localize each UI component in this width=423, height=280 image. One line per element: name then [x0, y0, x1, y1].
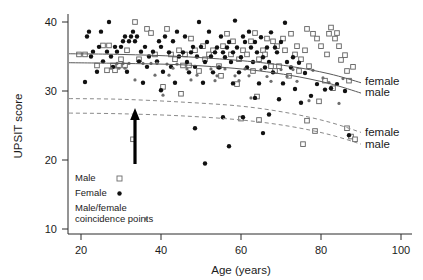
- data-point-coincidence: [279, 68, 282, 71]
- data-point-male: [345, 69, 350, 74]
- data-point-female: [85, 34, 89, 38]
- data-point-female: [131, 29, 135, 33]
- data-point-coincidence: [209, 67, 212, 70]
- data-point-coincidence: [265, 75, 268, 78]
- legend-label-female: Female: [75, 187, 107, 198]
- data-point-coincidence: [171, 67, 174, 70]
- data-point-female: [211, 70, 215, 74]
- data-point-coincidence: [195, 74, 198, 77]
- data-point-female: [275, 50, 279, 54]
- data-point-female: [141, 81, 145, 85]
- data-point-coincidence: [233, 74, 236, 77]
- data-point-male: [327, 31, 332, 36]
- data-point-female: [297, 61, 301, 65]
- data-point-male: [101, 43, 106, 48]
- data-point-female: [197, 20, 201, 24]
- data-point-male: [305, 118, 310, 123]
- data-point-female: [151, 49, 155, 53]
- x-tick-label-60: 60: [235, 244, 247, 256]
- legend-label-coincidence-line1: Male/female: [75, 202, 127, 213]
- data-point-female: [241, 115, 245, 119]
- y-tick-label-20: 20: [45, 154, 57, 166]
- data-point-male: [177, 48, 182, 53]
- data-point-female: [163, 34, 167, 38]
- data-point-coincidence: [237, 79, 240, 82]
- data-point-female: [193, 126, 197, 130]
- data-point-male: [353, 137, 358, 142]
- data-point-female: [161, 69, 165, 73]
- data-point-female: [187, 70, 191, 74]
- data-point-female: [107, 20, 111, 24]
- data-point-female: [207, 29, 211, 33]
- data-point-male: [221, 44, 226, 49]
- data-point-female: [109, 54, 113, 58]
- data-point-coincidence: [189, 78, 192, 81]
- data-point-coincidence: [249, 96, 252, 99]
- y-tick-label-30: 30: [45, 85, 57, 97]
- x-tick-label-20: 20: [75, 244, 87, 256]
- data-point-female: [231, 81, 235, 85]
- data-point-female: [277, 97, 281, 101]
- fit-curve-label-male-upper: male: [365, 86, 390, 98]
- data-point-female: [281, 81, 285, 85]
- data-point-male: [317, 99, 322, 104]
- data-point-female: [167, 50, 171, 54]
- data-points-layer: [77, 18, 358, 165]
- x-tick-label-80: 80: [315, 244, 327, 256]
- data-point-female: [203, 60, 207, 64]
- data-point-male: [333, 36, 338, 41]
- data-point-female: [95, 69, 99, 73]
- data-point-female: [123, 34, 127, 38]
- chart-figure: 40 30 20 10 20 40 60 80 100 Age (years) …: [0, 0, 423, 280]
- data-point-coincidence: [167, 74, 170, 77]
- data-point-female: [309, 94, 313, 98]
- data-point-female: [227, 40, 231, 44]
- data-point-female: [249, 45, 253, 49]
- data-point-male: [283, 48, 288, 53]
- data-point-male: [107, 43, 112, 48]
- data-point-female: [237, 70, 241, 74]
- x-tick-label-40: 40: [155, 244, 167, 256]
- data-point-male: [339, 58, 344, 63]
- data-point-male: [307, 64, 312, 69]
- data-point-female: [99, 29, 103, 33]
- series-female: [83, 18, 351, 165]
- data-point-male: [249, 39, 254, 44]
- data-point-female: [97, 45, 101, 49]
- data-point-female: [159, 88, 163, 92]
- data-point-male: [165, 27, 170, 32]
- legend-marker-coincidence-small-dot-icon: [144, 217, 147, 220]
- data-point-female: [213, 50, 217, 54]
- data-point-female: [299, 101, 303, 105]
- data-point-coincidence: [291, 68, 294, 71]
- data-point-female: [183, 34, 187, 38]
- data-point-male: [95, 63, 100, 68]
- data-point-male: [319, 44, 324, 49]
- data-point-female: [315, 82, 319, 86]
- data-point-female: [253, 40, 257, 44]
- data-point-female: [283, 20, 287, 24]
- data-point-male: [325, 52, 330, 57]
- data-point-female: [83, 80, 87, 84]
- upward-arrow-annotation: [130, 108, 140, 164]
- data-point-female: [269, 30, 273, 34]
- data-point-male: [329, 25, 334, 30]
- data-point-female: [253, 96, 257, 100]
- data-point-coincidence: [117, 67, 120, 70]
- data-point-female: [267, 112, 271, 116]
- data-point-female: [255, 50, 259, 54]
- data-point-female: [227, 144, 231, 148]
- data-point-female: [279, 40, 283, 44]
- data-point-male: [311, 31, 316, 36]
- data-point-male: [83, 52, 88, 57]
- data-point-coincidence: [337, 102, 340, 105]
- data-point-male: [235, 82, 240, 87]
- data-point-male: [181, 63, 186, 68]
- data-point-female: [231, 50, 235, 54]
- data-point-female: [113, 45, 117, 49]
- data-point-female: [201, 81, 205, 85]
- data-point-male: [271, 39, 276, 44]
- data-point-male: [253, 31, 258, 36]
- data-point-female: [125, 69, 129, 73]
- data-point-female: [89, 54, 93, 58]
